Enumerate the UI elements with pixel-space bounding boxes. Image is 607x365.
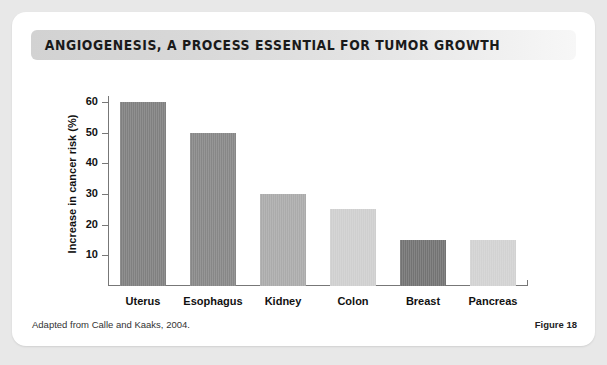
y-axis-tick-label: 40 [86,156,98,168]
figure-title-bar: ANGIOGENESIS, A PROCESS ESSENTIAL FOR TU… [31,30,576,60]
y-axis-tick-label: 20 [86,218,98,230]
y-axis-tick-label: 50 [86,126,98,138]
bar-series: UterusEsophagusKidneyColonBreastPancreas [108,96,528,286]
bar [260,194,306,286]
page-title: ANGIOGENESIS, A PROCESS ESSENTIAL FOR TU… [31,37,500,53]
x-axis-category-label: Esophagus [178,295,248,307]
x-axis-category-label: Uterus [108,295,178,307]
figure-card: ANGIOGENESIS, A PROCESS ESSENTIAL FOR TU… [12,12,595,346]
x-axis-category-label: Kidney [248,295,318,307]
x-axis-category-label: Pancreas [458,295,528,307]
bar-group: Pancreas [458,96,528,286]
y-axis-tick-label: 60 [86,95,98,107]
bar-group: Esophagus [178,96,248,286]
bar [330,209,376,286]
y-axis-tick-label: 30 [86,187,98,199]
chart-axes: 102030405060 UterusEsophagusKidneyColonB… [108,96,528,286]
y-axis-label: Increase in cancer risk (%) [66,89,78,279]
bar-group: Kidney [248,96,318,286]
chart-plot-area: Increase in cancer risk (%) 102030405060… [12,74,595,314]
bar [400,240,446,286]
x-axis-category-label: Breast [388,295,458,307]
bar-group: Uterus [108,96,178,286]
bar [470,240,516,286]
bar [190,133,236,286]
bar [120,102,166,286]
bar-group: Colon [318,96,388,286]
y-axis-tick-label: 10 [86,248,98,260]
figure-footer: Adapted from Calle and Kaaks, 2004. Figu… [32,319,577,330]
source-note: Adapted from Calle and Kaaks, 2004. [32,319,190,330]
bar-group: Breast [388,96,458,286]
figure-number: Figure 18 [535,319,577,330]
x-axis-category-label: Colon [318,295,388,307]
